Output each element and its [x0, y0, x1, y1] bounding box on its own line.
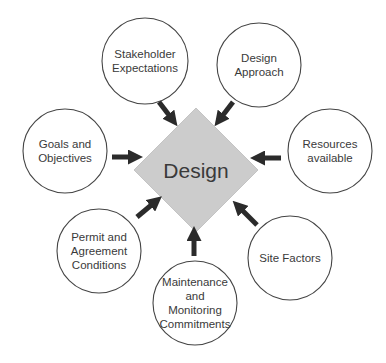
node-permit: Permit andAgreementConditions: [57, 209, 141, 293]
node-label-line: and: [185, 290, 204, 302]
center-label: Design: [163, 159, 228, 182]
node-label-line: Stakeholder: [114, 48, 176, 60]
node-label-line: Objectives: [38, 152, 92, 164]
node-label-line: Goals and: [39, 138, 91, 150]
node-design-approach: DesignApproach: [217, 23, 301, 107]
node-label-line: Resources: [303, 138, 358, 150]
node-label-line: Maintenance: [162, 276, 228, 288]
node-label-line: Expectations: [112, 62, 178, 74]
node-label-line: Agreement: [71, 245, 128, 257]
center-diamond: Design: [134, 108, 258, 232]
node-label-line: Conditions: [72, 259, 127, 271]
node-maintenance: MaintenanceandMonitoringCommitments: [153, 261, 237, 345]
diagram-svg: Design StakeholderExpectationsDesignAppr…: [0, 0, 386, 363]
node-circle: [102, 18, 188, 104]
node-goals: Goals andObjectives: [23, 109, 107, 193]
node-circle: [153, 261, 237, 345]
node-label-line: Monitoring: [168, 304, 222, 316]
arrow-icon: [220, 102, 233, 119]
node-circle: [288, 109, 372, 193]
node-circle: [217, 23, 301, 107]
node-resources: Resourcesavailable: [288, 109, 372, 193]
node-stakeholder: StakeholderExpectations: [102, 18, 188, 104]
node-label-line: Commitments: [160, 318, 231, 330]
node-circle: [23, 109, 107, 193]
node-label-line: available: [307, 152, 352, 164]
node-site-factors: Site Factors: [248, 216, 332, 300]
node-label-line: Site Factors: [259, 252, 321, 264]
node-label-line: Design: [241, 52, 277, 64]
node-label-line: Approach: [234, 66, 283, 78]
arrow-icon: [159, 102, 172, 119]
node-label-line: Permit and: [71, 231, 127, 243]
design-influences-diagram: Design StakeholderExpectationsDesignAppr…: [0, 0, 386, 363]
arrow-icon: [137, 202, 155, 217]
arrow-icon: [239, 207, 257, 225]
